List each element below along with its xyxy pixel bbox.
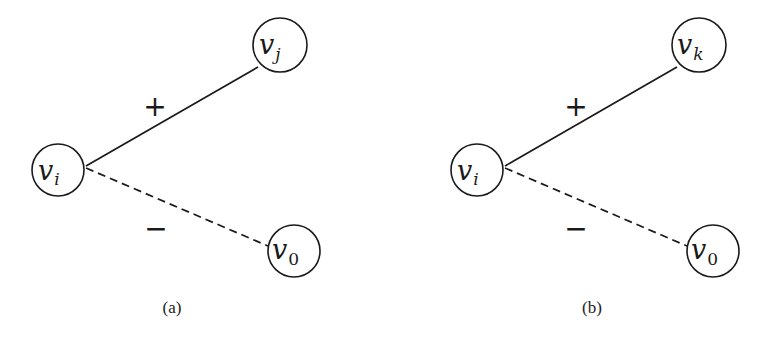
panel-a-caption: (a) — [163, 298, 182, 317]
panel-b: vi vk v0 + − (b) — [451, 18, 739, 317]
panel-a: vi vj v0 + − (a) — [32, 18, 320, 317]
negative-sign: − — [564, 212, 587, 245]
node-v0: v0 — [268, 225, 320, 277]
node-vk: vk — [672, 18, 726, 72]
positive-sign: + — [564, 90, 587, 123]
positive-sign: + — [143, 90, 166, 123]
negative-sign: − — [144, 212, 167, 245]
signed-graph-diagram: vi vj v0 + − (a) vi vk — [0, 0, 763, 338]
node-vj: vj — [253, 18, 307, 72]
negative-edge-vi-v0 — [505, 168, 687, 246]
node-v0: v0 — [687, 225, 739, 277]
positive-edge-vi-vk — [505, 67, 677, 166]
node-vi: vi — [32, 144, 84, 196]
positive-edge-vi-vj — [86, 67, 258, 166]
node-vi: vi — [451, 144, 503, 196]
panel-b-caption: (b) — [582, 298, 602, 317]
negative-edge-vi-v0 — [86, 168, 268, 246]
